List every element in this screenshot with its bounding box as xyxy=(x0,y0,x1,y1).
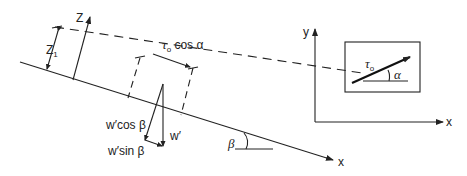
shear-stress-arrow xyxy=(153,54,190,67)
dashed-surface-line xyxy=(55,27,362,73)
element-right-edge xyxy=(181,68,193,115)
stress-element-box xyxy=(345,42,420,92)
slope-ground-line xyxy=(20,62,333,160)
z-axis xyxy=(73,17,90,80)
alpha-arc xyxy=(388,70,390,81)
plan-view-diagram: y x τo α xyxy=(303,25,452,129)
x-axis-label-right: x xyxy=(446,115,452,129)
weight-tangential-component xyxy=(145,140,162,146)
shear-vector-label: τo xyxy=(365,56,375,73)
z1-label: Z1 xyxy=(46,43,58,59)
weight-label: w′ xyxy=(169,129,182,143)
weight-tangential-label: w′sin β xyxy=(107,144,145,158)
element-left-tick xyxy=(135,56,145,58)
shear-vector-arrow xyxy=(352,57,410,83)
weight-normal-label: w′cos β xyxy=(105,118,146,132)
weight-normal-component xyxy=(145,84,163,140)
shear-stress-label: τo cos α xyxy=(162,37,203,54)
z-axis-label: Z xyxy=(76,11,83,25)
slope-diagram: Z Z1 τo cos α w′ w′cos β w′sin β β x xyxy=(20,11,362,169)
x-axis-label: x xyxy=(338,155,344,169)
diagram-canvas: Z Z1 τo cos α w′ w′cos β w′sin β β x y x xyxy=(0,0,467,176)
element-left-edge xyxy=(128,58,140,98)
beta-arc xyxy=(244,133,248,149)
y-axis-label: y xyxy=(303,25,309,39)
beta-label: β xyxy=(227,136,235,151)
alpha-label: α xyxy=(394,67,402,82)
